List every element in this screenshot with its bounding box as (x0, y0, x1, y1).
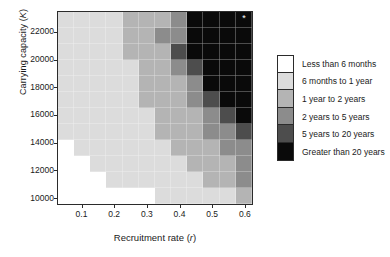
heatmap-cell (155, 76, 171, 92)
heatmap-cell (171, 76, 187, 92)
heatmap-cell (203, 60, 219, 76)
heatmap-cell (58, 188, 74, 204)
heatmap-cell (236, 92, 252, 108)
heatmap-cell (106, 76, 122, 92)
heatmap-cell (139, 60, 155, 76)
asterisk-marker: * (236, 12, 252, 28)
y-axis-tick-mark (54, 170, 57, 171)
heatmap-cell (187, 108, 203, 124)
heatmap-cell (220, 44, 236, 60)
heatmap-grid: * (58, 12, 252, 204)
legend-label: Less than 6 months (302, 59, 376, 69)
heatmap-cell: * (236, 12, 252, 28)
heatmap-plot-area: * (57, 11, 253, 205)
heatmap-cell (155, 172, 171, 188)
heatmap-cell (139, 12, 155, 28)
heatmap-cell (171, 124, 187, 140)
heatmap-cell (171, 92, 187, 108)
heatmap-cell (187, 28, 203, 44)
heatmap-cell (106, 92, 122, 108)
y-axis-tick-mark (54, 115, 57, 116)
heatmap-cell (58, 12, 74, 28)
heatmap-cell (139, 172, 155, 188)
heatmap-cell (236, 28, 252, 44)
heatmap-cell (236, 60, 252, 76)
heatmap-cell (171, 140, 187, 156)
y-axis-tick-label: 10000 (6, 193, 54, 203)
heatmap-cell (106, 172, 122, 188)
heatmap-cell (236, 188, 252, 204)
y-axis-tick-label: 20000 (6, 54, 54, 64)
heatmap-cell (74, 28, 90, 44)
heatmap-cell (155, 140, 171, 156)
heatmap-cell (220, 12, 236, 28)
heatmap-cell (220, 92, 236, 108)
legend-color-swatch (277, 125, 294, 143)
y-axis-tick-label: 22000 (6, 26, 54, 36)
heatmap-cell (203, 12, 219, 28)
heatmap-cell (139, 28, 155, 44)
heatmap-cell (187, 92, 203, 108)
heatmap-cell (236, 156, 252, 172)
heatmap-cell (236, 44, 252, 60)
heatmap-cell (58, 60, 74, 76)
heatmap-cell (203, 124, 219, 140)
heatmap-cell (203, 156, 219, 172)
heatmap-cell (203, 108, 219, 124)
heatmap-cell (155, 188, 171, 204)
heatmap-cell (220, 124, 236, 140)
x-axis-tick-mark (114, 205, 115, 208)
heatmap-cell (74, 44, 90, 60)
heatmap-cell (106, 12, 122, 28)
heatmap-cell (123, 108, 139, 124)
heatmap-cell (155, 44, 171, 60)
heatmap-cell (155, 12, 171, 28)
heatmap-cell (236, 124, 252, 140)
heatmap-cell (123, 12, 139, 28)
heatmap-cell (171, 44, 187, 60)
heatmap-cell (123, 156, 139, 172)
heatmap-cell (90, 28, 106, 44)
y-axis-tick-label: 12000 (6, 165, 54, 175)
heatmap-cell (220, 28, 236, 44)
heatmap-cell (106, 124, 122, 140)
heatmap-cell (106, 28, 122, 44)
heatmap-cell (123, 76, 139, 92)
heatmap-cell (74, 92, 90, 108)
heatmap-cell (220, 140, 236, 156)
heatmap-cell (220, 76, 236, 92)
y-axis-tick-labels: 10000120001400016000180002000022000 (2, 0, 54, 257)
heatmap-cell (123, 188, 139, 204)
legend-color-swatch (277, 108, 294, 126)
heatmap-cell (155, 92, 171, 108)
legend: Less than 6 months6 months to 1 year1 ye… (277, 55, 385, 161)
legend-color-swatch (277, 90, 294, 108)
heatmap-cell (90, 108, 106, 124)
x-axis-tick-label: 0.6 (225, 209, 265, 219)
heatmap-cell (236, 140, 252, 156)
x-axis-title-variable: r (190, 232, 193, 243)
y-axis-tick-label: 16000 (6, 109, 54, 119)
heatmap-cell (90, 12, 106, 28)
heatmap-cell (74, 108, 90, 124)
heatmap-cell (74, 124, 90, 140)
heatmap-cell (58, 140, 74, 156)
heatmap-cell (171, 172, 187, 188)
legend-color-swatch (277, 55, 294, 73)
heatmap-cell (203, 188, 219, 204)
heatmap-cell (203, 172, 219, 188)
x-axis-tick-mark (147, 205, 148, 208)
x-axis-tick-mark (212, 205, 213, 208)
chart-root: Carrying capacity (K) 100001200014000160… (0, 0, 390, 257)
legend-item: Less than 6 months (277, 55, 385, 73)
legend-color-swatch (277, 73, 294, 91)
heatmap-cell (106, 108, 122, 124)
heatmap-cell (203, 140, 219, 156)
heatmap-cell (58, 108, 74, 124)
heatmap-cell (74, 188, 90, 204)
heatmap-cell (58, 156, 74, 172)
legend-label: 2 years to 5 years (302, 112, 370, 122)
heatmap-cell (187, 12, 203, 28)
heatmap-cell (203, 28, 219, 44)
heatmap-cell (90, 188, 106, 204)
